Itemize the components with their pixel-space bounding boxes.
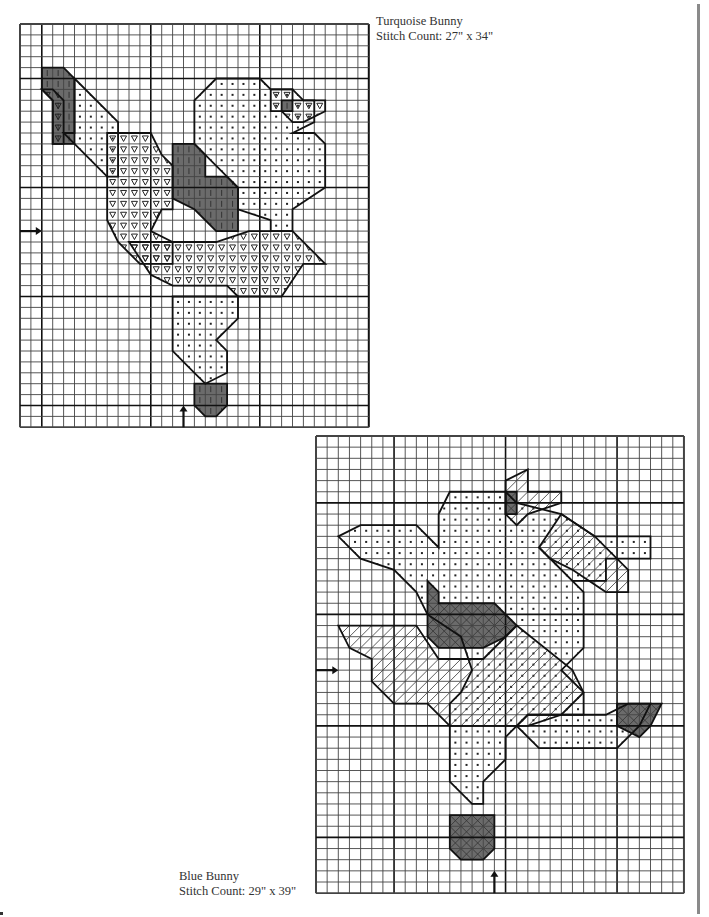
blue-bunny-grid <box>315 435 685 894</box>
turquoise-bunny-chart <box>19 23 370 428</box>
blue-bunny-caption: Blue Bunny Stitch Count: 29" x 39" <box>179 869 296 899</box>
chart-title: Turquoise Bunny <box>376 14 493 29</box>
turquoise-bunny-caption: Turquoise Bunny Stitch Count: 27" x 34" <box>376 14 493 44</box>
turquoise-bunny-grid <box>19 23 370 428</box>
stitch-count: Stitch Count: 29" x 39" <box>179 884 296 899</box>
scan-mark <box>0 912 3 915</box>
blue-bunny-chart <box>315 435 685 894</box>
page-edge-rule <box>697 4 700 914</box>
stitch-count: Stitch Count: 27" x 34" <box>376 29 493 44</box>
chart-title: Blue Bunny <box>179 869 296 884</box>
